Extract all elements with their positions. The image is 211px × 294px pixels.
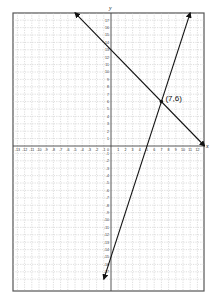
y-tick-label: -12 bbox=[104, 233, 109, 237]
x-tick-label: 4 bbox=[139, 148, 141, 152]
x-tick-label: 1 bbox=[117, 148, 119, 152]
y-tick-label: 8 bbox=[107, 85, 109, 89]
x-tick-label: 9 bbox=[175, 148, 177, 152]
x-tick-label: 3 bbox=[132, 148, 134, 152]
y-tick-label: -11 bbox=[104, 226, 109, 230]
y-tick-label: 7 bbox=[107, 93, 109, 97]
x-tick-label: -2 bbox=[95, 148, 98, 152]
intersection-label: (7,6) bbox=[165, 94, 182, 103]
x-tick-label: 10 bbox=[181, 148, 185, 152]
x-tick-label: 8 bbox=[168, 148, 170, 152]
x-tick-label: -3 bbox=[88, 148, 91, 152]
y-axis-label: y bbox=[108, 5, 112, 11]
x-tick-label: -5 bbox=[73, 148, 76, 152]
y-tick-label: 10 bbox=[105, 70, 109, 74]
coordinate-plane: -13-12-11-10-9-8-7-6-5-4-3-2-11234567891… bbox=[0, 0, 211, 294]
y-tick-label: 12 bbox=[105, 56, 109, 60]
x-tick-label: 7 bbox=[160, 148, 162, 152]
x-tick-label: -13 bbox=[15, 148, 20, 152]
x-tick-label: -4 bbox=[81, 148, 84, 152]
y-tick-label: -2 bbox=[106, 159, 109, 163]
y-tick-label: 13 bbox=[105, 48, 109, 52]
y-tick-label: 11 bbox=[105, 63, 109, 67]
x-tick-label: -12 bbox=[22, 148, 27, 152]
x-tick-label: -8 bbox=[52, 148, 55, 152]
y-tick-label: -5 bbox=[106, 181, 109, 185]
x-tick-label: 12 bbox=[195, 148, 199, 152]
origin-label: 0 bbox=[107, 148, 109, 152]
y-tick-label: 5 bbox=[107, 107, 109, 111]
y-tick-label: 4 bbox=[107, 115, 109, 119]
y-tick-label: -13 bbox=[104, 241, 109, 245]
x-tick-label: -11 bbox=[29, 148, 34, 152]
y-tick-label: 2 bbox=[107, 130, 109, 134]
y-tick-label: 3 bbox=[107, 122, 109, 126]
y-tick-label: 17 bbox=[105, 19, 109, 23]
y-tick-label: -6 bbox=[106, 189, 109, 193]
y-tick-label: 15 bbox=[105, 33, 109, 37]
y-tick-label: -8 bbox=[106, 204, 109, 208]
y-tick-label: 1 bbox=[107, 137, 109, 141]
x-tick-label: 11 bbox=[188, 148, 192, 152]
y-tick-label: -15 bbox=[104, 255, 109, 259]
y-tick-label: 16 bbox=[105, 26, 109, 30]
x-axis-label: x bbox=[205, 143, 209, 149]
y-tick-label: -4 bbox=[106, 174, 109, 178]
y-tick-label: -3 bbox=[106, 167, 109, 171]
y-tick-label: -1 bbox=[106, 152, 109, 156]
x-tick-label: 2 bbox=[124, 148, 126, 152]
x-tick-label: -7 bbox=[59, 148, 62, 152]
x-tick-label: 6 bbox=[153, 148, 155, 152]
y-tick-label: -9 bbox=[106, 211, 109, 215]
y-tick-label: 9 bbox=[107, 78, 109, 82]
y-tick-label: -10 bbox=[104, 218, 109, 222]
intersection-dot bbox=[160, 100, 164, 104]
y-tick-label: 6 bbox=[107, 100, 109, 104]
x-tick-label: -10 bbox=[36, 148, 41, 152]
x-tick-label: -9 bbox=[45, 148, 48, 152]
x-tick-label: -6 bbox=[66, 148, 69, 152]
y-tick-label: -14 bbox=[104, 248, 109, 252]
y-tick-label: -7 bbox=[106, 196, 109, 200]
